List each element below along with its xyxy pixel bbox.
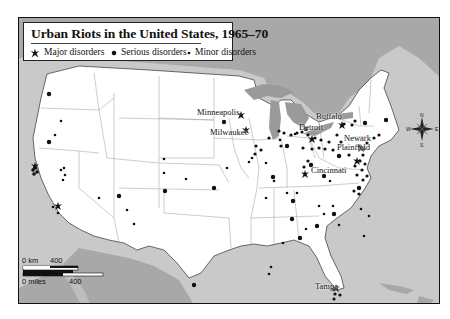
city-label-plainfield: Plainfield [337, 142, 370, 152]
legend-divider [31, 43, 201, 44]
city-label-minneapolis: Minneapolis [197, 107, 240, 117]
serious-disorder-dot-icon [111, 50, 117, 56]
map-title: Urban Riots in the United States, 1965–7… [31, 26, 268, 42]
legend-item-minor: Minor disorders [187, 47, 256, 57]
legend-label-serious: Serious disorders [121, 47, 187, 57]
city-label-milwaukee: Milwaukee [210, 127, 248, 137]
city-label-detroit: Detroit [299, 122, 323, 132]
map-frame: Urban Riots in the United States, 1965–7… [18, 17, 440, 304]
legend-label-major: Major disorders [44, 47, 104, 57]
minor-disorder-dot-icon [187, 51, 191, 55]
scale-km-zero: 0 km [22, 256, 38, 265]
legend-item-major: Major disorders [30, 47, 104, 58]
compass-east-label: E [435, 126, 438, 132]
city-label-cincinnati: Cincinnati [311, 165, 346, 175]
map-legend: Urban Riots in the United States, 1965–7… [23, 22, 233, 61]
legend-item-serious: Serious disorders [111, 47, 187, 57]
compass-rose-icon [410, 117, 434, 141]
city-label-buffalo: Buffalo [316, 111, 342, 121]
scale-miles-max: 400 [69, 277, 82, 286]
legend-label-minor: Minor disorders [195, 47, 256, 57]
scale-km-max: 400 [50, 256, 63, 265]
compass-south-label: S [420, 142, 423, 148]
city-label-tampa: Tampa [315, 281, 338, 291]
scale-miles-zero: 0 miles [22, 277, 46, 286]
major-disorder-star-icon [30, 48, 40, 58]
compass-north-label: N [420, 112, 424, 118]
compass-west-label: W [406, 126, 411, 132]
